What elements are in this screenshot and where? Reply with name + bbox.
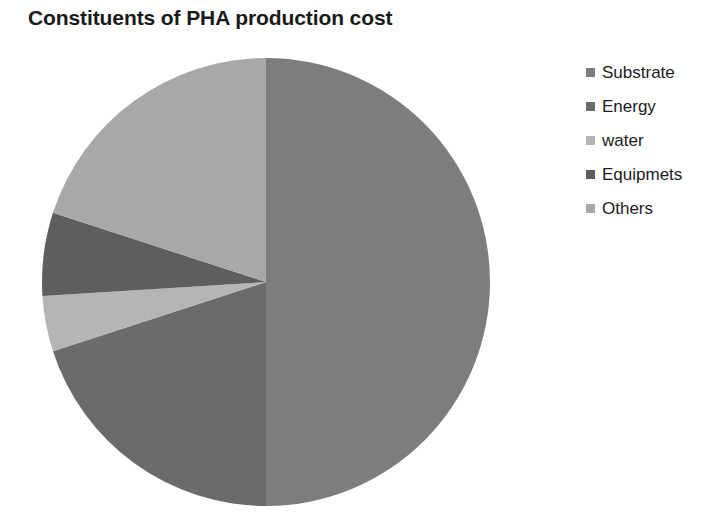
legend-swatch-icon (586, 204, 595, 213)
pie-svg (0, 0, 540, 531)
legend-item-water[interactable]: water (586, 123, 726, 157)
legend-swatch-icon (586, 170, 595, 179)
legend-swatch-icon (586, 68, 595, 77)
legend-item-others[interactable]: Others (586, 191, 726, 225)
legend-item-label: Equipmets (602, 166, 682, 183)
legend-swatch-icon (586, 102, 595, 111)
legend-item-energy[interactable]: Energy (586, 89, 726, 123)
legend-item-label: Energy (602, 98, 656, 115)
chart-legend: SubstrateEnergywaterEquipmetsOthers (586, 55, 726, 225)
legend-swatch-icon (586, 136, 595, 145)
pie-slice-substrate[interactable] (266, 58, 490, 506)
pie-plot-area (0, 0, 540, 531)
legend-item-label: Others (602, 200, 653, 217)
legend-item-label: Substrate (602, 64, 675, 81)
pie-slice-group (42, 58, 490, 506)
legend-item-label: water (602, 132, 644, 149)
pie-chart-figure: Constituents of PHA production cost Subs… (0, 0, 727, 531)
legend-item-equipmets[interactable]: Equipmets (586, 157, 726, 191)
legend-item-substrate[interactable]: Substrate (586, 55, 726, 89)
